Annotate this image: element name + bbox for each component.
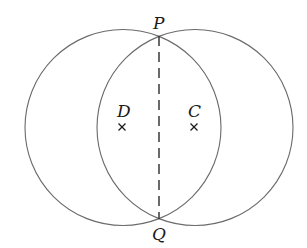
centre-marker-c: [191, 124, 198, 131]
two-circles-diagram: P Q D C: [0, 0, 307, 248]
centre-marker-d: [119, 124, 126, 131]
label-q: Q: [152, 224, 166, 244]
label-p: P: [152, 13, 165, 33]
label-d: D: [116, 101, 131, 121]
label-c: C: [188, 101, 201, 121]
